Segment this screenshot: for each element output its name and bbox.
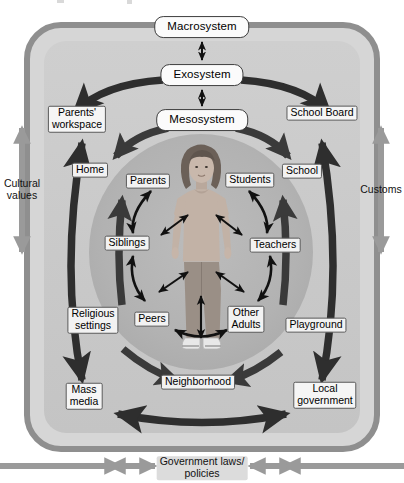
microsystem-label-siblings: Siblings <box>105 236 150 251</box>
mesosystem-label-neighborhood: Neighborhood <box>161 375 235 390</box>
microsystem-label-students: Students <box>225 173 274 188</box>
exosystem-label-local-government: Local government <box>293 382 356 409</box>
mesosystem-label-home: Home <box>72 163 108 178</box>
microsystem-label-parents: Parents <box>126 174 170 189</box>
ecological-systems-diagram: Macrosystem Exosystem Mesosystem Parents… <box>0 0 404 483</box>
exosystem-label-mass-media: Mass media <box>66 383 103 410</box>
macrosystem-label-government-laws: Government laws/ policies <box>157 456 248 480</box>
mesosystem-label-religious-settings: Religious settings <box>67 307 118 334</box>
mesosystem-label-school: School <box>282 164 322 179</box>
system-label-exosystem: Exosystem <box>160 64 243 86</box>
arrow-playground-school <box>283 200 286 305</box>
microsystem-label-peers: Peers <box>134 312 169 327</box>
macrosystem-label-cultural-values: Cultural values <box>4 178 40 202</box>
microsystem-label-teachers: Teachers <box>250 238 301 253</box>
macrosystem-label-customs: Customs <box>360 184 401 196</box>
system-label-macrosystem: Macrosystem <box>154 16 249 38</box>
microsystem-label-other-adults: Other Adults <box>227 306 264 333</box>
exosystem-label-parents-workspace: Parents' workspace <box>48 106 106 133</box>
arrow-religious-home <box>119 200 122 305</box>
exosystem-label-school-board: School Board <box>286 106 357 121</box>
mesosystem-label-playground: Playground <box>285 318 346 333</box>
system-label-mesosystem: Mesosystem <box>156 109 248 131</box>
